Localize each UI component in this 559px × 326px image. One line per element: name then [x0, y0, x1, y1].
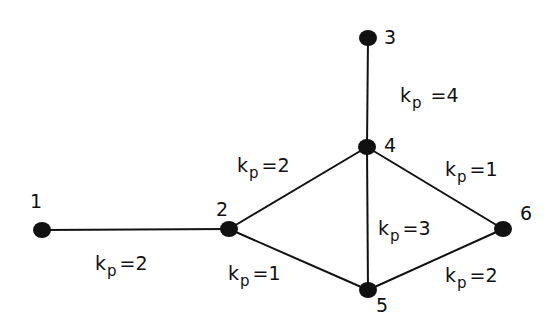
node-4: [358, 139, 376, 155]
edge-1-2: [42, 229, 229, 230]
edge-2-4: [229, 147, 367, 229]
node-6: [494, 221, 512, 237]
edge-label-1-2: kp=2: [95, 252, 148, 280]
edge-label-5-6: kp=2: [445, 264, 498, 292]
node-label-2: 2: [216, 198, 228, 220]
edge-4-5: [367, 147, 368, 290]
edge-label-2-5: kp=1: [228, 262, 281, 290]
node-3: [359, 30, 377, 46]
node-label-3: 3: [384, 26, 396, 48]
network-diagram: kp=2kp=2kp=1kp =4kp=3kp=1kp=2123456: [0, 0, 559, 326]
edge-3-4: [367, 38, 368, 147]
edge-label-2-4: kp=2: [237, 154, 290, 182]
node-5: [359, 282, 377, 298]
node-label-5: 5: [376, 294, 388, 316]
node-2: [220, 221, 238, 237]
node-label-6: 6: [520, 202, 532, 224]
node-label-4: 4: [384, 134, 396, 156]
labels: kp=2kp=2kp=1kp =4kp=3kp=1kp=2123456: [30, 26, 532, 316]
node-1: [33, 222, 51, 238]
edge-label-3-4: kp =4: [400, 84, 459, 112]
edge-2-5: [229, 229, 368, 290]
edge-label-4-6: kp=1: [445, 158, 498, 186]
edge-label-4-5: kp=3: [378, 217, 431, 245]
node-label-1: 1: [30, 190, 42, 212]
